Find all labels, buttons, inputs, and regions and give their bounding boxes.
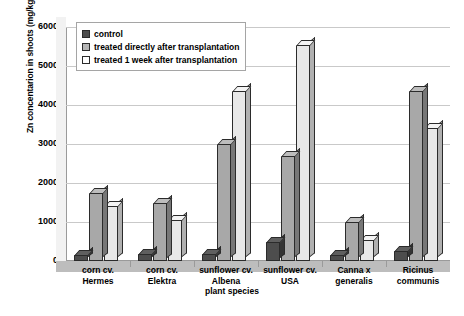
bar-side <box>295 148 300 257</box>
legend-item: treated 1 week after transplantation <box>82 53 239 66</box>
bar <box>74 255 88 261</box>
bar-group <box>386 27 450 261</box>
legend-item: treated directly after transplantation <box>82 40 239 53</box>
bar-face <box>74 255 88 261</box>
bar <box>266 242 280 262</box>
x-tick-label: corn cv.Elektra <box>130 265 194 286</box>
x-tick-label-line: sunflower cv. <box>194 265 258 276</box>
x-tick-label-line: corn cv. <box>130 265 194 276</box>
x-tick-label-line: Canna x <box>322 265 386 276</box>
legend-item: control <box>82 27 239 40</box>
x-tick-label-line: communis <box>386 276 450 287</box>
y-tick-label: 2000 <box>18 178 58 187</box>
x-axis-title: plant species <box>205 286 259 296</box>
x-axis-tick-mark <box>322 261 323 267</box>
bar-face <box>138 254 152 261</box>
chart-legend: controltreated directly after transplant… <box>76 22 246 71</box>
bar-face <box>394 251 408 261</box>
x-axis-tick-mark <box>386 261 387 267</box>
bar-side <box>118 198 123 257</box>
y-tick-label: 0 <box>18 256 58 265</box>
y-tick-label: 6000 <box>18 22 58 31</box>
bar-side <box>423 83 428 257</box>
x-tick-label-line: Albena <box>194 276 258 287</box>
legend-item-label: treated 1 week after transplantation <box>94 55 237 65</box>
x-tick-label: sunflower cv.USA <box>258 265 322 286</box>
bar-side <box>246 83 251 257</box>
bar <box>217 144 231 261</box>
bar <box>330 255 344 261</box>
plot-back-wall <box>56 17 66 261</box>
bar-side <box>438 120 443 257</box>
x-tick-label: Ricinuscommunis <box>386 265 450 286</box>
y-tick-label: 3000 <box>18 139 58 148</box>
x-tick-label-line: Hermes <box>66 276 130 287</box>
bar-side <box>310 37 315 257</box>
legend-item-label: treated directly after transplantation <box>94 42 239 52</box>
x-tick-label-line: USA <box>258 276 322 287</box>
y-axis-tick-labels: 0100020003000400050006000 <box>16 0 58 316</box>
x-axis-tick-mark <box>130 261 131 267</box>
x-axis-tick-mark <box>258 261 259 267</box>
x-tick-label: Canna xgeneralis <box>322 265 386 286</box>
bar-side <box>167 195 172 257</box>
y-tick-label: 1000 <box>18 217 58 226</box>
x-tick-label-line: Elektra <box>130 276 194 287</box>
bar-side <box>103 185 108 257</box>
bar-group <box>322 27 386 261</box>
y-tick-label: 5000 <box>18 61 58 70</box>
bar-face <box>202 254 216 261</box>
bar-chart: Zn concentarion in shoots (mg/kg) 010002… <box>0 0 464 316</box>
bar <box>138 254 152 261</box>
bar-face <box>409 91 423 261</box>
bar <box>409 91 423 261</box>
x-tick-label-line: generalis <box>322 276 386 287</box>
x-tick-label-line: sunflower cv. <box>258 265 322 276</box>
x-tick-label: corn cv.Hermes <box>66 265 130 286</box>
bar-face <box>217 144 231 261</box>
x-tick-label-line: corn cv. <box>66 265 130 276</box>
y-tick-label: 4000 <box>18 100 58 109</box>
bar <box>394 251 408 261</box>
bar-group <box>258 27 322 261</box>
bar <box>202 254 216 261</box>
legend-item-label: control <box>94 29 123 39</box>
x-tick-label: sunflower cv.Albena <box>194 265 258 286</box>
bar-face <box>266 242 280 262</box>
x-tick-label-line: Ricinus <box>386 265 450 276</box>
bar-face <box>330 255 344 261</box>
legend-swatch-icon <box>82 43 90 51</box>
bar <box>345 222 359 261</box>
legend-swatch-icon <box>82 30 90 38</box>
bar-side <box>231 136 236 257</box>
bar-face <box>345 222 359 261</box>
x-axis-tick-mark <box>194 261 195 267</box>
legend-swatch-icon <box>82 56 90 64</box>
